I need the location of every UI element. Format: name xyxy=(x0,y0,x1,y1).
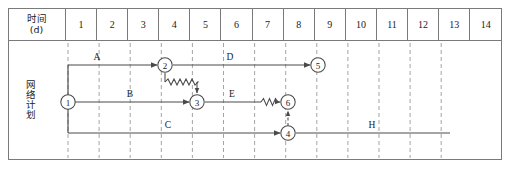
node-6-label: 6 xyxy=(286,98,291,108)
activity-label-H: H xyxy=(369,120,376,130)
node-5-label: 5 xyxy=(316,61,321,71)
activity-labels: A D B E C H xyxy=(94,52,376,130)
lag-segment-E-zigzag xyxy=(261,99,280,106)
activity-label-E: E xyxy=(229,89,235,99)
activity-label-C: C xyxy=(165,120,171,130)
network-plan-diagram: 时间 (d) 1 2 3 4 5 6 7 8 9 10 11 12 13 14 … xyxy=(0,0,510,174)
node-2[interactable]: 2 xyxy=(158,58,172,72)
lag-link-zigzag xyxy=(165,79,198,85)
node-1[interactable]: 1 xyxy=(61,95,75,109)
node-1-label: 1 xyxy=(66,98,71,108)
node-3[interactable]: 3 xyxy=(190,95,204,109)
activity-label-D: D xyxy=(227,52,234,62)
day-gridlines xyxy=(68,43,441,158)
activity-label-A: A xyxy=(94,52,101,62)
node-6[interactable]: 6 xyxy=(281,95,295,109)
network-arrow-diagram: 1 2 3 4 5 6 A xyxy=(0,0,510,174)
activity-label-B: B xyxy=(127,89,133,99)
node-4[interactable]: 4 xyxy=(281,126,295,140)
nodes-group: 1 2 3 4 5 6 xyxy=(61,58,325,140)
lag-link-2-to-3 xyxy=(165,73,198,93)
lag-segment-E-to-6 xyxy=(261,99,280,106)
node-5[interactable]: 5 xyxy=(311,58,325,72)
node-4-label: 4 xyxy=(286,129,291,139)
node-2-label: 2 xyxy=(163,61,168,71)
node-3-label: 3 xyxy=(195,98,200,108)
